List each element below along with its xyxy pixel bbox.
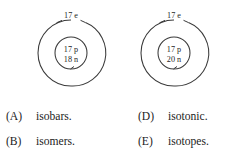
proton-count-label-right: 17 p bbox=[167, 45, 181, 54]
atom-diagram-svg: 17 e 17 p 18 n 17 e 17 p 20 n bbox=[0, 0, 241, 100]
neutron-count-label-right: 20 n bbox=[167, 55, 181, 64]
answer-option-d-label: isotonic. bbox=[168, 111, 208, 123]
electron-count-label-right: 17 e bbox=[167, 11, 181, 20]
answer-option-a[interactable]: (A) isobars. bbox=[6, 111, 138, 123]
answer-option-e-label: isotopes. bbox=[168, 136, 209, 148]
answer-option-d-letter: (D) bbox=[138, 111, 160, 123]
answer-option-row: (A) isobars. (D) isotonic. bbox=[0, 104, 241, 130]
answer-option-row: (B) isomers. (E) isotopes. bbox=[0, 129, 241, 155]
answer-options: (A) isobars. (D) isotonic. (B) isomers. … bbox=[0, 100, 241, 156]
answer-option-b-letter: (B) bbox=[6, 136, 28, 148]
answer-option-b[interactable]: (B) isomers. bbox=[6, 136, 138, 148]
atom-diagrams: 17 e 17 p 18 n 17 e 17 p 20 n bbox=[0, 0, 241, 100]
answer-option-a-label: isobars. bbox=[36, 111, 72, 123]
neutron-count-label-left: 18 n bbox=[64, 55, 78, 64]
answer-option-b-label: isomers. bbox=[36, 136, 75, 148]
question-page: 17 e 17 p 18 n 17 e 17 p 20 n (A) isobar… bbox=[0, 0, 241, 156]
electron-count-label-left: 17 e bbox=[64, 11, 78, 20]
answer-option-e-letter: (E) bbox=[138, 136, 160, 148]
atom-left: 17 e 17 p 18 n bbox=[38, 11, 106, 87]
answer-option-e[interactable]: (E) isotopes. bbox=[138, 136, 209, 148]
answer-option-a-letter: (A) bbox=[6, 111, 28, 123]
answer-option-d[interactable]: (D) isotonic. bbox=[138, 111, 208, 123]
atom-right: 17 e 17 p 20 n bbox=[141, 11, 209, 87]
shell-label-tick-right-left bbox=[81, 20, 86, 22]
proton-count-label-left: 17 p bbox=[64, 45, 78, 54]
shell-label-tick-right-right bbox=[184, 20, 189, 22]
